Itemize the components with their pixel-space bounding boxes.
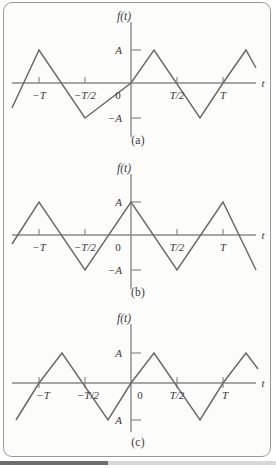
x-tick-label-neg-T-a: −T: [32, 89, 46, 101]
x-tick-label-neg-T-b: −T: [32, 241, 46, 253]
waveform-c: [16, 353, 258, 420]
y-tick-label-neg-A-a: −A: [108, 112, 122, 124]
waveform-b: [12, 202, 256, 270]
x-tick-label-T-c: T: [222, 389, 229, 401]
x-tick-label-T-a: T: [220, 89, 227, 101]
waveform-a: [12, 50, 256, 118]
figure-page: f(t) t A −A −T −T/2 T/2 T 0 (a): [0, 0, 276, 468]
x-axis-label-b: t: [261, 229, 265, 241]
y-axis-label-c: f(t): [117, 312, 131, 325]
y-axis-label-b: f(t): [117, 162, 131, 175]
x-tick-label-T-half-c: T/2: [170, 389, 185, 401]
x-axis-label-c: t: [261, 377, 265, 389]
x-tick-label-neg-T-half-a: −T/2: [74, 89, 97, 101]
panel-caption-c: (c): [0, 436, 276, 448]
y-tick-label-neg-A-c: A: [114, 414, 122, 426]
x-tick-label-neg-T-c: −T: [36, 389, 50, 401]
origin-label-c: 0: [137, 389, 143, 401]
x-tick-label-neg-T-half-c: −T/2: [77, 389, 100, 401]
y-tick-label-A-c: A: [114, 347, 122, 359]
chart-panel-b: f(t) t A −A −T −T/2 T/2 T 0 (b): [0, 158, 276, 308]
origin-label-b: 0: [115, 241, 121, 253]
x-tick-label-T-b: T: [220, 241, 227, 253]
x-axis-label-a: t: [261, 77, 265, 89]
x-tick-label-T-half-a: T/2: [170, 89, 185, 101]
x-tick-label-T-half-b: T/2: [170, 241, 185, 253]
chart-panel-c: f(t) t A A −T −T/2 T/2 T 0 (c): [0, 310, 276, 458]
y-tick-label-A-a: A: [114, 44, 122, 56]
y-axis-label-a: f(t): [117, 10, 131, 23]
y-tick-label-neg-A-b: −A: [108, 264, 122, 276]
y-tick-label-A-b: A: [114, 196, 122, 208]
panel-caption-a: (a): [0, 134, 276, 146]
panel-caption-b: (b): [0, 286, 276, 298]
chart-panel-a: f(t) t A −A −T −T/2 T/2 T 0 (a): [0, 6, 276, 156]
x-tick-label-neg-T-half-b: −T/2: [74, 241, 97, 253]
origin-label-a: 0: [115, 89, 121, 101]
